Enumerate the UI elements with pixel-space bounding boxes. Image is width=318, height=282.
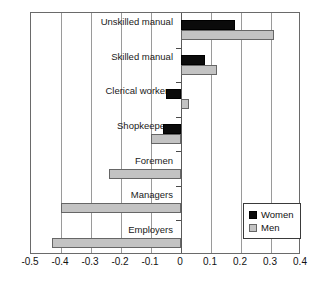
- legend-label-women: Women: [261, 208, 294, 221]
- x-tick-label: -0.4: [51, 256, 68, 267]
- bar-men: [181, 65, 217, 75]
- category-label: Foremen: [135, 155, 173, 166]
- bar-men: [52, 238, 181, 248]
- category-tick-mark: [176, 220, 181, 221]
- x-tick-label: -0.2: [111, 256, 128, 267]
- legend-label-men: Men: [261, 221, 279, 234]
- legend-swatch-men-icon: [249, 224, 257, 232]
- x-axis-tick-labels: -0.5-0.4-0.3-0.2-0.100.10.20.30.4: [0, 256, 318, 276]
- bar-men: [109, 169, 181, 179]
- category-label: Unskilled manual: [101, 16, 173, 27]
- category-band: Clerical workers: [31, 82, 299, 117]
- x-tick-label: 0.2: [233, 256, 247, 267]
- category-band: Foremen: [31, 151, 299, 186]
- bar-women: [181, 20, 235, 30]
- bar-men: [181, 30, 274, 40]
- category-label: Clerical workers: [105, 85, 173, 96]
- legend-swatch-women-icon: [249, 211, 257, 219]
- category-tick-mark: [176, 48, 181, 49]
- category-label: Employers: [128, 224, 173, 235]
- category-tick-mark: [176, 186, 181, 187]
- x-tick-label: 0: [177, 256, 183, 267]
- category-tick-mark: [176, 151, 181, 152]
- x-tick-label: 0.3: [263, 256, 277, 267]
- chart-legend: Women Men: [243, 203, 301, 239]
- bar-men: [61, 203, 181, 213]
- x-tick-label: 0.1: [203, 256, 217, 267]
- x-tick-label: -0.3: [81, 256, 98, 267]
- bar-chart: Unskilled manualSkilled manualClerical w…: [0, 0, 318, 282]
- category-tick-mark: [176, 82, 181, 83]
- category-band: Unskilled manual: [31, 13, 299, 48]
- x-tick-label: 0.4: [293, 256, 307, 267]
- x-tick-label: -0.1: [141, 256, 158, 267]
- category-label: Managers: [131, 189, 173, 200]
- bar-men: [181, 99, 189, 109]
- category-band: Shopkeepers: [31, 117, 299, 152]
- legend-item-women: Women: [249, 208, 294, 221]
- bar-women: [163, 124, 181, 134]
- bar-men: [151, 134, 181, 144]
- category-band: Skilled manual: [31, 48, 299, 83]
- category-tick-mark: [176, 117, 181, 118]
- category-label: Skilled manual: [111, 51, 173, 62]
- legend-item-men: Men: [249, 221, 294, 234]
- bar-women: [181, 55, 205, 65]
- bar-women: [166, 89, 181, 99]
- x-tick-label: -0.5: [21, 256, 38, 267]
